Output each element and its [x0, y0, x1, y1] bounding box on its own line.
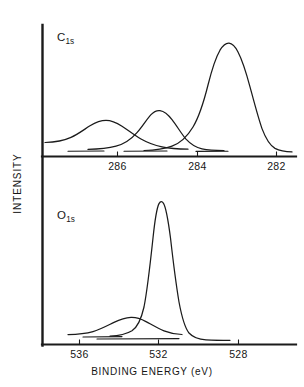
panel-label-c1s-orbital: 1s [66, 37, 75, 46]
xps-spectra-figure: 286 284 282 536 532 528 [0, 0, 304, 387]
panel-label-o1s-orbital: 1s [66, 215, 75, 224]
x-tick-label-o1s-536: 536 [70, 348, 89, 360]
x-tick-label-c1s-282: 282 [267, 160, 286, 172]
curve-c1s-component-1 [45, 120, 188, 149]
curve-o1s-component-2 [110, 202, 230, 341]
panel-label-o1s-element: O [57, 209, 66, 221]
y-axis-title: INTENSITY [12, 136, 23, 232]
x-tick-label-o1s-532: 532 [149, 348, 168, 360]
curve-c1s-component-3 [144, 43, 292, 152]
curve-c1s-component-2 [88, 111, 224, 151]
x-tick-label-c1s-286: 286 [108, 160, 127, 172]
x-tick-label-c1s-284: 284 [188, 160, 207, 172]
panel-c1s: 286 284 282 [42, 43, 296, 172]
curve-o1s-component-1 [68, 317, 182, 334]
x-tick-label-o1s-528: 528 [229, 348, 248, 360]
panel-o1s: 536 532 528 [42, 202, 296, 360]
panel-label-o1s: O1s [57, 209, 75, 224]
panel-label-c1s-element: C [57, 31, 66, 43]
panel-label-c1s: C1s [57, 31, 74, 46]
spectra-plot-canvas: 286 284 282 536 532 528 [0, 0, 304, 387]
x-axis-title: BINDING ENERGY (eV) [0, 366, 304, 377]
